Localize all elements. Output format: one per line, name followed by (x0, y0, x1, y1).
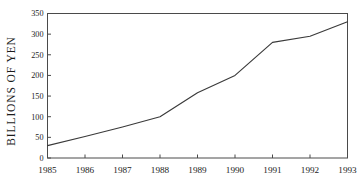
y-axis-tick-label: 0 (39, 154, 43, 163)
y-axis-tick-label: 350 (31, 9, 43, 18)
y-axis-tick-labels: 050100150200250300350 (31, 9, 43, 163)
y-axis-tick-label: 300 (31, 30, 43, 39)
x-axis-tick-label: 1992 (301, 165, 320, 175)
x-axis-tick-label: 1988 (151, 165, 170, 175)
x-axis-tick-label: 1985 (38, 165, 57, 175)
data-series-line (48, 22, 348, 146)
y-axis-tick-marks (48, 14, 52, 159)
chart-figure: BILLIONS OF YEN 050100150200250300350 19… (0, 0, 359, 181)
x-axis-tick-label: 1986 (76, 165, 95, 175)
plot-frame-border (48, 14, 348, 159)
y-axis-tick-label: 100 (31, 113, 43, 122)
y-axis-tick-label: 50 (35, 133, 43, 142)
line-chart-plot: 050100150200250300350 198519861987198819… (0, 0, 359, 181)
x-axis-tick-marks (48, 155, 348, 159)
y-axis-tick-label: 200 (31, 71, 43, 80)
x-axis-tick-label: 1989 (188, 165, 207, 175)
x-axis-tick-labels: 198519861987198819891990199119921993 (38, 165, 357, 175)
x-axis-tick-label: 1990 (226, 165, 245, 175)
y-axis-tick-label: 150 (31, 92, 43, 101)
y-axis-tick-label: 250 (31, 51, 43, 60)
x-axis-tick-label: 1993 (338, 165, 357, 175)
x-axis-tick-label: 1991 (263, 165, 282, 175)
x-axis-tick-label: 1987 (113, 165, 132, 175)
